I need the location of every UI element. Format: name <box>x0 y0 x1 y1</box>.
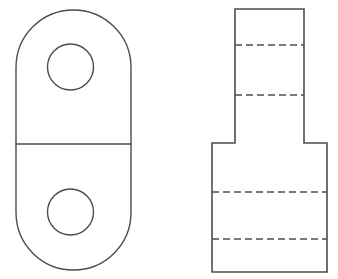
front-view-outline <box>212 9 327 272</box>
top-view <box>16 10 131 270</box>
drawing-canvas <box>0 0 338 279</box>
top-view-lower-hole <box>48 189 94 235</box>
front-view <box>212 9 327 272</box>
top-view-upper-hole <box>48 44 94 90</box>
engineering-drawing-svg <box>0 0 338 279</box>
top-view-outline <box>16 10 131 270</box>
